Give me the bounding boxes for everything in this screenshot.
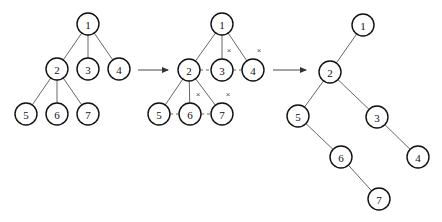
tree-node-3: 3 [211, 59, 233, 81]
tree-node-3: 3 [366, 106, 388, 128]
tree-node-6: 6 [330, 146, 352, 168]
tree-node-1: 1 [211, 13, 233, 35]
tree-node-5: 5 [148, 103, 170, 125]
tree-node-1: 1 [77, 13, 99, 35]
tree-node-4: 4 [108, 58, 130, 80]
tree-conversion-diagram: ×××× 123456712345671253647 [0, 0, 442, 222]
cut-mark-icon: × [227, 46, 232, 55]
node-label: 7 [219, 109, 225, 121]
tree-node-2: 2 [178, 59, 200, 81]
node-label: 1 [360, 20, 366, 32]
node-label: 7 [376, 194, 382, 206]
node-label: 3 [219, 65, 225, 77]
tree-node-3: 3 [77, 58, 99, 80]
tree-node-1: 1 [352, 14, 374, 36]
tree-node-6: 6 [179, 103, 201, 125]
tree-node-5: 5 [15, 103, 37, 125]
tree-node-5: 5 [287, 105, 309, 127]
node-label: 5 [295, 111, 301, 123]
node-label: 6 [338, 152, 344, 164]
node-label: 4 [116, 64, 122, 76]
node-label: 2 [54, 64, 60, 76]
cut-mark-icon: × [226, 90, 231, 99]
node-label: 4 [250, 65, 256, 77]
panel-sibling-linked-tree [159, 24, 253, 114]
tree-node-7: 7 [77, 103, 99, 125]
tree-node-4: 4 [407, 146, 429, 168]
panel-original-tree [26, 24, 119, 114]
node-label: 1 [85, 19, 91, 31]
node-label: 5 [156, 109, 162, 121]
node-label: 3 [374, 112, 380, 124]
node-label: 6 [54, 109, 60, 121]
tree-node-2: 2 [319, 61, 341, 83]
panel-binary-tree [298, 25, 418, 199]
tree-node-4: 4 [242, 59, 264, 81]
cut-mark-icon: × [196, 90, 201, 99]
node-label: 4 [415, 152, 421, 164]
tree-node-7: 7 [211, 103, 233, 125]
node-label: 5 [23, 109, 29, 121]
node-label: 3 [85, 64, 91, 76]
node-label: 1 [219, 19, 225, 31]
tree-node-6: 6 [46, 103, 68, 125]
tree-node-7: 7 [368, 188, 390, 210]
diagram-canvas: ×××× 123456712345671253647 [0, 0, 442, 222]
node-label: 2 [186, 65, 192, 77]
node-label: 2 [327, 67, 333, 79]
node-label: 7 [85, 109, 91, 121]
tree-node-2: 2 [46, 58, 68, 80]
cut-mark-icon: × [257, 46, 262, 55]
node-label: 6 [187, 109, 193, 121]
